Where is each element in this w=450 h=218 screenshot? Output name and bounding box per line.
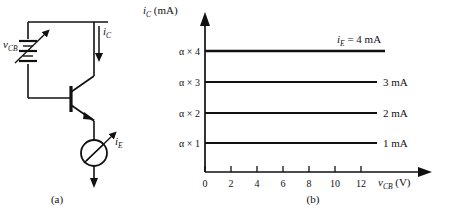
panel-b-chart: iC (mA) vCB (V) 0 2 4 6 8 10 12 α [143, 4, 432, 206]
variable-voltage-source-symbol [15, 34, 45, 63]
x-tick-label: 4 [255, 178, 260, 189]
npn-transistor-symbol [71, 22, 95, 140]
x-tick-label: 2 [229, 178, 234, 189]
x-tick-label: 12 [356, 178, 366, 189]
variability-arrow-icon [15, 34, 45, 63]
y-axis-arrow-icon [200, 12, 210, 26]
x-tick-label: 6 [281, 178, 286, 189]
x-axis-arrow-icon [418, 167, 432, 177]
source-label: vCB [3, 38, 18, 53]
collector-current-label: iC [103, 25, 112, 40]
collector-current-arrow [95, 26, 103, 62]
figure-container: vCB iC [0, 0, 450, 218]
emitter-arrow-icon [83, 112, 95, 120]
emitter-current-label: iE [115, 135, 123, 150]
curve-label-1mA: 1 mA [383, 137, 408, 149]
y-tick-label: α × 4 [179, 46, 200, 57]
panel-a-circuit: vCB iC [3, 22, 123, 206]
characteristic-curves [205, 51, 385, 143]
x-tick-marks [205, 166, 361, 172]
x-tick-label: 8 [307, 178, 312, 189]
x-tick-labels: 0 2 4 6 8 10 12 [203, 178, 367, 189]
down-arrow-icon-2 [90, 178, 98, 188]
x-tick-label: 0 [203, 178, 208, 189]
curve-label-3mA: 3 mA [383, 76, 408, 88]
y-tick-label: α × 1 [179, 138, 200, 149]
x-tick-label: 10 [330, 178, 340, 189]
panel-a-caption: (a) [51, 193, 64, 206]
down-arrow-icon [95, 53, 103, 62]
figure-svg: vCB iC [0, 0, 450, 218]
panel-b-caption: (b) [307, 193, 320, 206]
variable-current-source-symbol [81, 136, 112, 188]
y-tick-label: α × 3 [179, 77, 200, 88]
curve-label-2mA: 2 mA [383, 107, 408, 119]
x-axis-label: vCB (V) [378, 176, 411, 191]
curve-label-4mA: iE = 4 mA [337, 33, 381, 48]
y-tick-label: α × 2 [179, 108, 200, 119]
y-tick-labels: α × 1 α × 2 α × 3 α × 4 [179, 46, 200, 149]
y-axis-label: iC (mA) [143, 4, 178, 19]
